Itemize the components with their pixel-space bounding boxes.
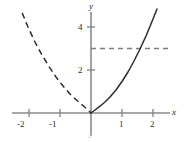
x-axis-label: x (172, 108, 176, 117)
x-tick-label-minus2: -2 (17, 120, 25, 129)
x-tick-label-2: 2 (150, 120, 155, 129)
plot-canvas (0, 0, 184, 142)
y-tick-label-4: 4 (78, 23, 83, 32)
y-tick-label-2: 2 (78, 66, 83, 75)
caption-stub: 2 (88, 133, 92, 139)
x-tick-label-minus1: -1 (49, 120, 57, 129)
graph-figure: y x 4 2 -2 -1 1 2 2 (0, 0, 184, 142)
y-axis-label: y (89, 2, 93, 11)
parabola-right-solid (91, 9, 157, 113)
x-tick-label-1: 1 (119, 120, 124, 129)
